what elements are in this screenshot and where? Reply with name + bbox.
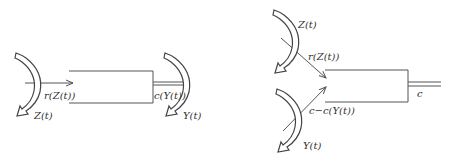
right-bottom-flow-label: c−c(Y(t)) [309, 105, 355, 116]
right-diagram: Z(t) r(Z(t)) c−c(Y(t)) Y(t) c [273, 10, 441, 152]
diagram-canvas: r(Z(t)) c(Y(t)) Z(t) Y(t) Z(t) r(Z(t)) c… [0, 0, 458, 163]
left-output-rotation-label: Y(t) [183, 110, 202, 121]
right-bottom-rotation-arrow-icon [276, 89, 302, 152]
left-output-shaft [153, 82, 185, 85]
right-top-flow-label: r(Z(t)) [308, 51, 339, 62]
left-rotation-arrow-icon [15, 53, 41, 116]
right-top-rotation-arrow-icon [273, 10, 299, 73]
right-box [325, 70, 408, 102]
left-output-flow-label: c(Y(t)) [154, 90, 186, 101]
right-output-label: c [417, 88, 423, 99]
left-input-rotation-label: Z(t) [33, 110, 53, 121]
left-input-flow-label: r(Z(t)) [44, 90, 75, 101]
right-bottom-rotation-label: Y(t) [303, 140, 322, 151]
left-box [69, 71, 153, 103]
right-top-rotation-label: Z(t) [297, 19, 317, 30]
right-output-shaft [408, 82, 441, 86]
left-diagram: r(Z(t)) c(Y(t)) Z(t) Y(t) [15, 53, 202, 121]
